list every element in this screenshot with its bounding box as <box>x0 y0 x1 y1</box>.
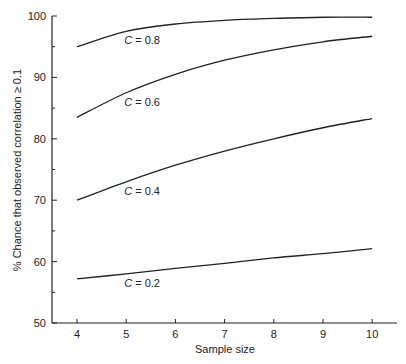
curve-06 <box>77 36 372 117</box>
curve-08 <box>77 17 372 47</box>
x-tick-label: 8 <box>271 328 277 340</box>
x-tick-label: 4 <box>74 328 80 340</box>
curve-label: C = 0.6 <box>124 96 160 108</box>
curve-label: C = 0.2 <box>124 277 160 289</box>
x-tick-label: 6 <box>172 328 178 340</box>
y-tick-label: 70 <box>34 194 46 206</box>
x-tick-label: 5 <box>123 328 129 340</box>
curve-02 <box>77 249 372 279</box>
curves <box>77 17 372 279</box>
y-tick-label: 100 <box>28 10 46 22</box>
y-tick-label: 60 <box>34 256 46 268</box>
y-tick-label: 80 <box>34 133 46 145</box>
y-tick-label: 50 <box>34 317 46 329</box>
x-tick-label: 9 <box>320 328 326 340</box>
y-tick-label: 90 <box>34 71 46 83</box>
curve-label: C = 0.8 <box>124 34 160 46</box>
curve-04 <box>77 119 372 201</box>
x-tick-label: 10 <box>366 328 378 340</box>
axes: 506070809010045678910 <box>28 10 397 340</box>
line-chart: 506070809010045678910 C = 0.8C = 0.6C = … <box>0 0 406 364</box>
y-axis-title: % Chance that observed correlation ≥ 0.1 <box>11 69 23 271</box>
x-tick-label: 7 <box>222 328 228 340</box>
curve-label: C = 0.4 <box>124 185 160 197</box>
curve-labels: C = 0.8C = 0.6C = 0.4C = 0.2 <box>124 34 160 289</box>
x-axis-title: Sample size <box>195 343 255 355</box>
